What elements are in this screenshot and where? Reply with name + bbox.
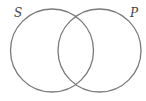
set-s-label: S <box>14 7 22 19</box>
set-s-circle <box>11 9 94 92</box>
set-p-label: P <box>130 7 138 19</box>
set-p-circle <box>58 9 141 92</box>
